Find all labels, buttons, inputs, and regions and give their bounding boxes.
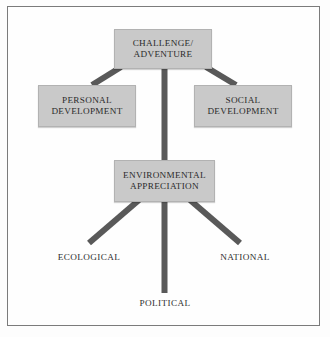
connector-challenge-to-social [206, 67, 236, 85]
node-personal-development-line1: PERSONAL [62, 95, 112, 106]
connector-environmental-to-national [190, 200, 240, 243]
leaf-label-political: POLITICAL [120, 298, 210, 308]
node-social-development-line1: SOCIAL [226, 95, 261, 106]
node-environmental-appreciation[interactable]: ENVIRONMENTAL APPRECIATION [114, 160, 215, 202]
node-social-development[interactable]: SOCIAL DEVELOPMENT [194, 85, 292, 127]
node-challenge-adventure[interactable]: CHALLENGE/ ADVENTURE [114, 29, 212, 69]
node-challenge-adventure-line2: ADVENTURE [134, 49, 193, 60]
leaf-label-national: NATIONAL [200, 252, 290, 262]
node-challenge-adventure-line1: CHALLENGE/ [133, 38, 194, 49]
connector-challenge-to-personal [92, 67, 121, 85]
node-social-development-line2: DEVELOPMENT [207, 106, 278, 117]
node-environmental-appreciation-line2: APPRECIATION [130, 181, 199, 192]
node-environmental-appreciation-line1: ENVIRONMENTAL [123, 170, 206, 181]
node-personal-development[interactable]: PERSONAL DEVELOPMENT [38, 85, 136, 127]
diagram-canvas: CHALLENGE/ ADVENTURE PERSONAL DEVELOPMEN… [0, 0, 330, 337]
node-personal-development-line2: DEVELOPMENT [51, 106, 122, 117]
leaf-label-ecological: ECOLOGICAL [44, 252, 134, 262]
connector-environmental-to-ecological [89, 200, 139, 243]
